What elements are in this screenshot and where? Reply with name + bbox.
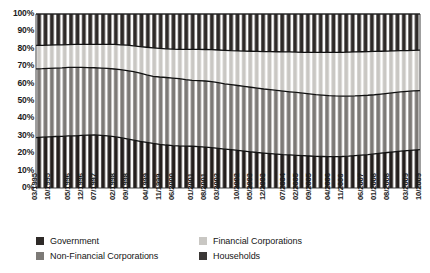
legend-column-left: Government Non-Financial Corporations [36,234,158,264]
y-axis-tick-label: 40% [1,113,34,122]
y-axis-tick-label: 10% [1,166,34,175]
y-axis-tick-label: 70% [1,61,34,70]
y-axis-tick-label: 50% [1,96,34,105]
legend-column-right: Financial Corporations Households [199,234,302,264]
y-axis-tick-label: 0% [1,183,34,192]
legend-item-financial-corporations: Financial Corporations [199,234,302,247]
y-axis-tick-label: 60% [1,79,34,88]
legend-swatch-households-icon [199,252,207,260]
legend-label-households: Households [213,251,260,261]
legend-swatch-financial-corporations-icon [199,237,207,245]
plot-svg [0,0,430,232]
y-axis-tick-label: 80% [1,44,34,53]
stacked-area-chart: 0%10%20%30%40%50%60%70%80%90%100% 03/199… [0,0,430,273]
y-axis-tick-label: 30% [1,131,34,140]
y-axis-tick-label: 90% [1,26,34,35]
legend-item-households: Households [199,249,302,262]
y-axis-tick-label: 100% [1,9,34,18]
y-axis: 0%10%20%30%40%50%60%70%80%90%100% [0,0,34,232]
y-axis-tick-label: 20% [1,148,34,157]
legend-item-government: Government [36,234,158,247]
legend-swatch-non-financial-corporations-icon [36,252,44,260]
plot-area: 0%10%20%30%40%50%60%70%80%90%100% 03/199… [0,0,430,232]
legend-item-non-financial-corporations: Non-Financial Corporations [36,249,158,262]
legend-label-government: Government [50,236,99,246]
chart-legend: Government Non-Financial Corporations Fi… [0,234,430,268]
legend-label-financial-corporations: Financial Corporations [213,236,302,246]
legend-swatch-government-icon [36,237,44,245]
legend-label-non-financial-corporations: Non-Financial Corporations [50,251,158,261]
